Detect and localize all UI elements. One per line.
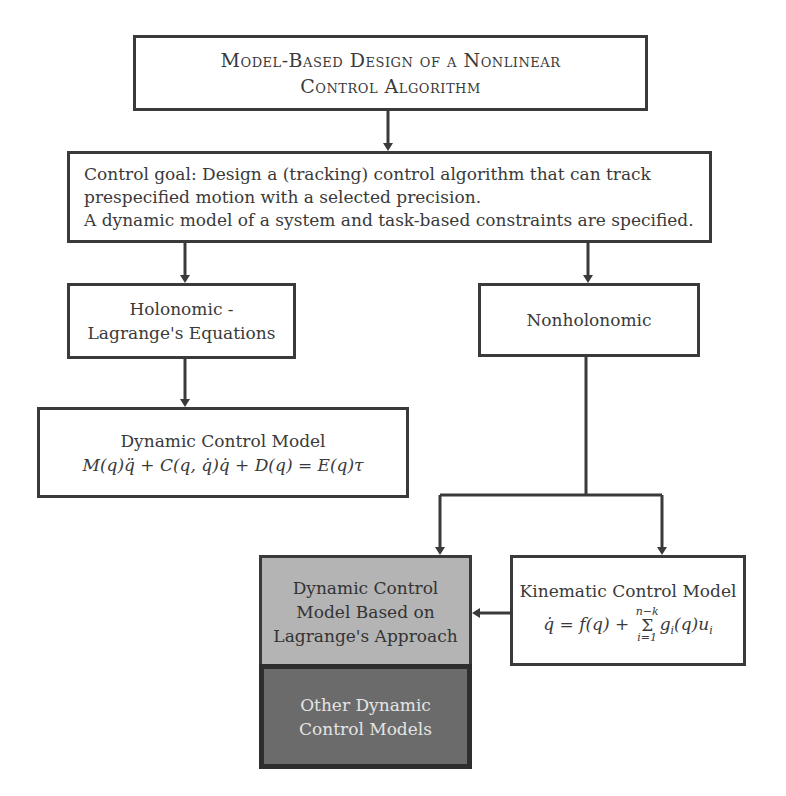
kinematic-eq-tail: (q)u — [674, 613, 709, 633]
other-models-line-2: Control Models — [299, 717, 432, 741]
summation: n−kΣi=1 — [636, 607, 659, 643]
dynamic-model-title: Dynamic Control Model — [120, 429, 325, 453]
goal-line-3: A dynamic model of a system and task-bas… — [84, 209, 694, 232]
kinematic-eq-lhs: q̇ = f(q) + — [543, 613, 634, 633]
kinematic-model-title: Kinematic Control Model — [520, 579, 737, 603]
holonomic-line-2: Lagrange's Equations — [88, 321, 276, 345]
nonholonomic-box: Nonholonomic — [478, 283, 700, 357]
lagrange-approach-box: Dynamic Control Model Based on Lagrange'… — [259, 555, 472, 668]
lagrange-line-1: Dynamic Control — [293, 576, 439, 600]
kinematic-eq-g: g — [660, 613, 671, 633]
goal-line-2: prespecified motion with a selected prec… — [84, 186, 481, 209]
control-goal-box: Control goal: Design a (tracking) contro… — [67, 151, 712, 243]
goal-line-1: Control goal: Design a (tracking) contro… — [84, 163, 651, 186]
lagrange-line-2: Model Based on — [296, 600, 434, 624]
kinematic-control-model-box: Kinematic Control Model q̇ = f(q) + n−kΣ… — [510, 555, 746, 666]
dynamic-control-model-box: Dynamic Control Model M(q)q̈ + C(q, q̇)q… — [37, 407, 409, 498]
holonomic-line-1: Holonomic - — [129, 297, 233, 321]
nonholonomic-label: Nonholonomic — [526, 308, 651, 332]
sum-lower-limit: i=1 — [637, 633, 657, 643]
holonomic-box: Holonomic - Lagrange's Equations — [67, 283, 296, 359]
dynamic-model-equation: M(q)q̈ + C(q, q̇)q̇ + D(q) = E(q)τ — [82, 453, 363, 477]
title-line-2: Control Algorithm — [300, 73, 481, 99]
kinematic-eq-u-sub: i — [709, 623, 713, 636]
title-line-1: Model-Based Design of a Nonlinear — [221, 47, 561, 73]
lagrange-line-3: Lagrange's Approach — [273, 624, 457, 648]
other-dynamic-models-box: Other Dynamic Control Models — [259, 664, 472, 769]
other-models-line-1: Other Dynamic — [300, 693, 431, 717]
kinematic-model-equation: q̇ = f(q) + n−kΣi=1gi(q)ui — [543, 607, 712, 643]
title-box: Model-Based Design of a Nonlinear Contro… — [133, 35, 648, 111]
